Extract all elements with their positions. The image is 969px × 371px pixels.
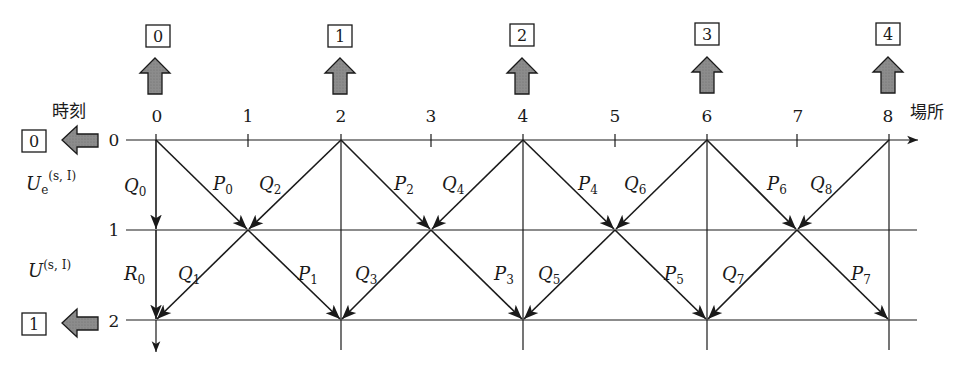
label-q8: Q8 (810, 173, 832, 197)
x-tick-labels: 0 1 2 3 4 5 6 7 8 (152, 106, 894, 126)
x-tick-label: 4 (518, 106, 529, 126)
top-step-4: 4 (873, 23, 903, 93)
top-step-label: 3 (702, 25, 712, 44)
y-axis-title: 時刻 (52, 101, 86, 121)
label-p6: P6 (766, 173, 787, 197)
left-step-0: 0 (22, 126, 98, 154)
left-step-1: 1 (22, 309, 98, 337)
x-tick-label: 3 (426, 106, 437, 126)
label-q7: Q7 (722, 263, 744, 287)
x-axis-title: 場所 (910, 102, 944, 122)
label-q6: Q6 (624, 173, 646, 197)
y-tick-label: 1 (109, 220, 120, 240)
up-arrow-icon (140, 58, 170, 94)
label-q5: Q5 (538, 263, 560, 287)
label-q4: Q4 (442, 173, 465, 197)
top-step-label: 2 (517, 26, 527, 45)
label-p0: P0 (212, 173, 233, 197)
x-tick-label: 6 (702, 106, 713, 126)
up-arrow-icon (507, 58, 537, 94)
top-step-3: 3 (692, 23, 722, 93)
top-step-label: 4 (883, 25, 893, 44)
top-step-markers: 0 1 2 3 4 (140, 23, 903, 94)
x-tick-label: 2 (336, 106, 347, 126)
label-p5: P5 (663, 263, 684, 287)
label-q3: Q3 (355, 263, 377, 287)
top-step-2: 2 (507, 24, 537, 94)
label-q0: Q0 (124, 175, 146, 199)
left-step-label: 0 (29, 132, 39, 151)
grid-lines (126, 134, 918, 350)
row-label-u: U(s, I) (28, 258, 71, 281)
label-p2: P2 (393, 173, 414, 197)
y-tick-label: 2 (109, 311, 120, 331)
label-p4: P4 (577, 173, 598, 197)
x-tick-label: 5 (610, 106, 621, 126)
label-r0: R0 (123, 263, 145, 287)
left-arrow-icon (62, 126, 98, 154)
y-tick-label: 0 (109, 130, 120, 150)
row-label-ue: Ue(s, I) (26, 169, 76, 197)
up-arrow-icon (873, 57, 903, 93)
left-arrow-icon (62, 309, 98, 337)
label-p7: P7 (850, 263, 871, 287)
left-step-label: 1 (29, 315, 39, 334)
y-tick-labels: 0 1 2 (109, 130, 120, 331)
x-tick-label: 7 (793, 106, 804, 126)
label-p1: P1 (297, 263, 318, 287)
top-step-label: 1 (335, 27, 345, 46)
space-time-diagram: 0 1 2 3 4 時刻 場所 0 1 2 3 4 (0, 0, 969, 371)
upper-arrow-labels: P0 Q2 P2 Q4 P4 Q6 P6 Q8 (212, 173, 832, 197)
label-p3: P3 (493, 263, 514, 287)
top-step-0: 0 (140, 25, 170, 94)
x-tick-label: 1 (243, 106, 254, 126)
top-step-label: 0 (153, 27, 163, 46)
lower-arrow-labels: Q1 P1 Q3 P3 Q5 P5 Q7 P7 (178, 263, 871, 287)
x-tick-label: 8 (883, 106, 894, 126)
up-arrow-icon (692, 57, 722, 93)
label-q2: Q2 (259, 173, 281, 197)
label-q1: Q1 (178, 263, 200, 287)
x-tick-label: 0 (152, 106, 163, 126)
top-step-1: 1 (325, 25, 355, 94)
up-arrow-icon (325, 58, 355, 94)
